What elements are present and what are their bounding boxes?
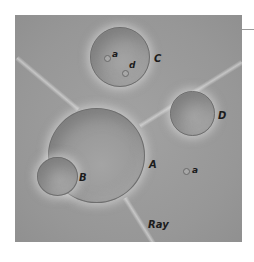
crater-b xyxy=(37,157,78,196)
label-pit-a-outside: a xyxy=(192,166,198,175)
pit-a-outside xyxy=(183,168,190,175)
crater-d xyxy=(170,91,215,136)
label-crater-d: D xyxy=(218,111,226,121)
label-crater-a: A xyxy=(149,160,157,170)
pit-d-in-crater-c xyxy=(122,70,129,77)
label-crater-b: B xyxy=(79,173,87,183)
pit-a-in-crater-c xyxy=(104,55,111,62)
leader-line xyxy=(242,29,254,30)
label-pit-a-in-c: a xyxy=(112,50,118,59)
label-ray: Ray xyxy=(148,220,169,230)
crater-illustration: a d C D A B a Ray xyxy=(15,15,242,242)
label-pit-d-in-c: d xyxy=(129,61,135,70)
label-crater-c: C xyxy=(154,54,161,64)
ray-upper-left xyxy=(15,56,80,112)
crater-c xyxy=(90,27,150,87)
